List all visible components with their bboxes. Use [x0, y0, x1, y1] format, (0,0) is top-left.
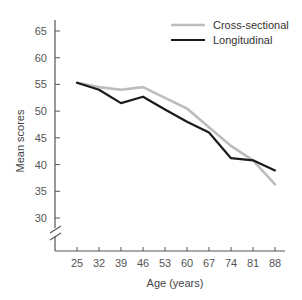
y-tick-label: 55 — [35, 78, 47, 90]
x-tick-label: 53 — [159, 257, 171, 269]
series-line-longitudinal — [77, 83, 275, 171]
y-tick-label: 60 — [35, 52, 47, 64]
x-tick-label: 39 — [115, 257, 127, 269]
y-tick-label: 65 — [35, 25, 47, 37]
x-axis-title: Age (years) — [147, 277, 204, 289]
legend-label: Cross-sectional — [213, 19, 289, 31]
y-tick-label: 35 — [35, 185, 47, 197]
x-axis: 25323946536067748188 — [55, 247, 285, 269]
y-tick-label: 45 — [35, 132, 47, 144]
y-tick-label: 30 — [35, 212, 47, 224]
series-line-cross-sectional — [77, 83, 275, 185]
x-tick-label: 74 — [225, 257, 237, 269]
x-tick-label: 60 — [181, 257, 193, 269]
x-tick-label: 46 — [137, 257, 149, 269]
x-tick-label: 25 — [71, 257, 83, 269]
x-tick-label: 81 — [247, 257, 259, 269]
y-axis-title: Mean scores — [14, 109, 26, 172]
line-chart: 3035404550556065 25323946536067748188 Cr… — [0, 0, 302, 300]
legend-label: Longitudinal — [213, 34, 272, 46]
y-tick-label: 50 — [35, 105, 47, 117]
x-tick-label: 88 — [269, 257, 281, 269]
x-tick-label: 32 — [93, 257, 105, 269]
y-axis: 3035404550556065 — [35, 20, 61, 251]
y-tick-label: 40 — [35, 159, 47, 171]
x-tick-label: 67 — [203, 257, 215, 269]
legend: Cross-sectionalLongitudinal — [171, 19, 289, 46]
series-layer — [77, 83, 275, 185]
